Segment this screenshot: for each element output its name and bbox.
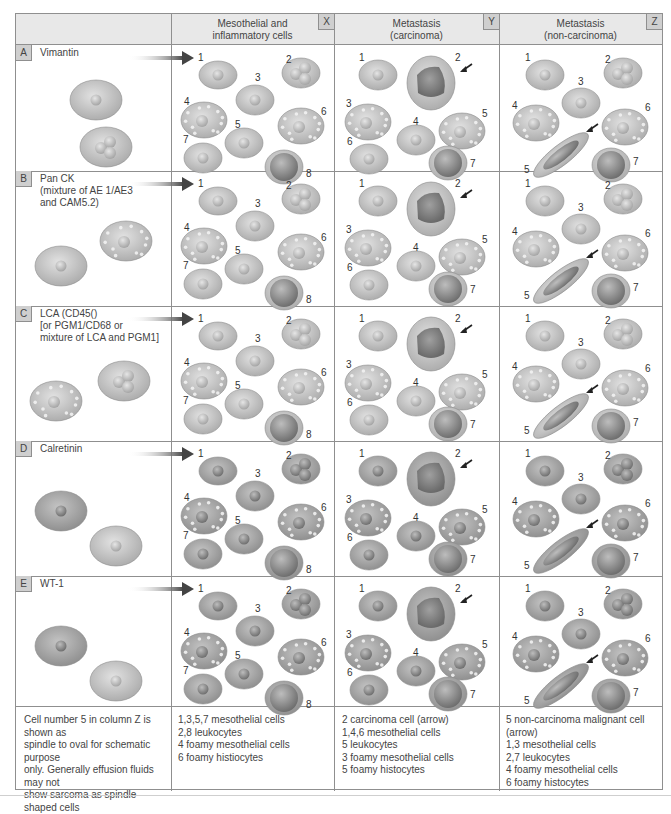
- nucleus: [617, 248, 629, 260]
- vacuole: [216, 661, 220, 665]
- cell-number: 6: [645, 102, 651, 113]
- vacuole: [469, 140, 473, 144]
- vacuole: [474, 537, 478, 541]
- vacuole: [288, 662, 292, 666]
- vacuole: [355, 253, 359, 257]
- nucleus: [111, 541, 122, 552]
- cell-number: 6: [347, 262, 353, 273]
- vacuole: [355, 523, 359, 527]
- cell-number: 2: [286, 315, 292, 326]
- vacuole: [198, 232, 202, 236]
- nucleus: [528, 118, 540, 130]
- vacuole: [474, 382, 478, 386]
- vacuole: [281, 251, 285, 255]
- arrow-icon: [460, 192, 467, 198]
- nucleus: [213, 196, 224, 207]
- vacuole: [186, 507, 190, 511]
- cell-number: 4: [413, 116, 419, 127]
- vacuole: [525, 395, 529, 399]
- vacuole: [477, 394, 481, 398]
- vacuole: [140, 230, 144, 234]
- vacuole: [135, 251, 139, 255]
- cell-number: 8: [306, 429, 312, 440]
- cell-number: 2: [286, 54, 292, 65]
- vacuole: [553, 245, 557, 249]
- vacuole: [75, 397, 79, 401]
- vacuole: [283, 117, 287, 121]
- vacuole: [44, 414, 48, 418]
- carcinoma-nucleus: [417, 328, 445, 358]
- cell-number: 3: [255, 333, 261, 344]
- cell-number: 2: [605, 585, 611, 596]
- cell-number: 3: [255, 198, 261, 209]
- vacuole: [193, 131, 197, 135]
- cell-number: 1: [198, 448, 204, 459]
- vacuole: [539, 108, 543, 112]
- vacuole: [518, 375, 522, 379]
- vacuole: [290, 137, 294, 141]
- vacuole: [283, 648, 287, 652]
- vacuole: [380, 238, 384, 242]
- vacuole: [474, 517, 478, 521]
- cell-number: 7: [633, 282, 639, 293]
- cell-number: 2: [455, 313, 461, 324]
- cell-number: 4: [184, 222, 190, 233]
- vacuole: [114, 254, 118, 258]
- nucleus: [528, 379, 540, 391]
- vacuole: [316, 389, 320, 393]
- vacuole: [444, 653, 448, 657]
- pointer-arrow-shaft: [128, 587, 184, 591]
- vacuole: [637, 378, 641, 382]
- vacuole: [283, 513, 287, 517]
- vacuole: [350, 113, 354, 117]
- vacuole: [530, 640, 534, 644]
- vacuole: [288, 131, 292, 135]
- nucleus: [270, 153, 298, 181]
- arrow-icon: [460, 597, 467, 603]
- vacuole: [619, 113, 623, 117]
- nucleus-lobe: [621, 323, 633, 335]
- nucleus: [198, 549, 209, 560]
- nucleus: [111, 676, 122, 687]
- cell-number: 1: [359, 52, 365, 63]
- nucleus: [411, 666, 422, 677]
- carcinoma-nucleus: [417, 67, 445, 97]
- vacuole: [637, 117, 641, 121]
- nucleus: [434, 410, 462, 438]
- cell-number: 1: [198, 313, 204, 324]
- nucleus: [239, 669, 250, 680]
- vacuole: [193, 392, 197, 396]
- vacuole: [518, 645, 522, 649]
- cell-number: 3: [346, 224, 352, 235]
- nucleus: [617, 653, 629, 665]
- vacuole: [184, 650, 188, 654]
- nucleus: [454, 252, 466, 264]
- vacuole: [216, 236, 220, 240]
- vacuole: [313, 532, 317, 536]
- cell-number: 7: [470, 419, 476, 430]
- nucleus-lobe: [299, 593, 311, 605]
- nucleus: [373, 70, 384, 81]
- vacuole: [605, 522, 609, 526]
- vacuole: [637, 513, 641, 517]
- nucleus: [434, 680, 462, 708]
- vacuole: [304, 507, 308, 511]
- nucleus: [373, 331, 384, 342]
- cell-number: 3: [578, 202, 584, 213]
- cell-number: 7: [633, 687, 639, 698]
- cell-number: 2: [455, 583, 461, 594]
- vacuole: [619, 509, 623, 513]
- vacuole: [479, 523, 483, 527]
- nucleus-lobe: [621, 593, 633, 605]
- vacuole: [211, 525, 215, 529]
- cell-number: 5: [524, 164, 530, 175]
- nucleus-lobe: [104, 136, 116, 148]
- nucleus: [56, 261, 67, 272]
- nucleus: [411, 261, 422, 272]
- vacuole: [525, 260, 529, 264]
- nucleus: [617, 383, 629, 395]
- cell-number: 5: [524, 695, 530, 706]
- vacuole: [295, 373, 299, 377]
- vacuole: [348, 382, 352, 386]
- vacuole: [383, 520, 387, 524]
